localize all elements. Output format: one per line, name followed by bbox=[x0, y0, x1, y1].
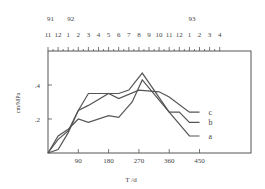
month-label: 4 bbox=[218, 31, 222, 39]
year-label: 91 bbox=[47, 15, 55, 23]
month-label: 11 bbox=[45, 31, 52, 39]
month-label: 9 bbox=[147, 31, 151, 39]
series-label-b: b bbox=[209, 118, 213, 127]
month-label: 10 bbox=[156, 31, 164, 39]
month-label: 7 bbox=[127, 31, 131, 39]
month-label: 12 bbox=[55, 31, 63, 39]
month-label: 5 bbox=[107, 31, 111, 39]
month-label: 2 bbox=[198, 31, 202, 39]
plot-frame bbox=[48, 51, 251, 153]
x-tick-label: 90 bbox=[75, 157, 83, 165]
series-label-c: c bbox=[209, 108, 213, 117]
y-tick-label: .4 bbox=[35, 82, 41, 90]
x-tick-label: 180 bbox=[103, 157, 114, 165]
month-label: 1 bbox=[188, 31, 192, 39]
year-label: 93 bbox=[188, 15, 196, 23]
month-label: 4 bbox=[97, 31, 101, 39]
x-axis-label: T /d bbox=[125, 176, 137, 184]
month-label: 3 bbox=[87, 31, 91, 39]
year-label: 92 bbox=[67, 15, 75, 23]
month-label: 11 bbox=[166, 31, 173, 39]
x-tick-label: 270 bbox=[134, 157, 145, 165]
series-line-a bbox=[48, 73, 200, 153]
month-label: 8 bbox=[137, 31, 141, 39]
line-chart: 1112123456789101112123491929390180270360… bbox=[0, 0, 265, 189]
series-label-a: a bbox=[209, 132, 213, 141]
y-axis-label: cm/MPa bbox=[15, 93, 21, 114]
y-tick-label: .2 bbox=[35, 116, 41, 124]
x-tick-label: 360 bbox=[164, 157, 175, 165]
month-label: 3 bbox=[208, 31, 212, 39]
x-tick-label: 450 bbox=[194, 157, 205, 165]
month-label: 6 bbox=[117, 31, 121, 39]
month-label: 2 bbox=[77, 31, 81, 39]
month-label: 12 bbox=[176, 31, 184, 39]
month-label: 1 bbox=[66, 31, 70, 39]
series-line-b bbox=[48, 80, 200, 153]
